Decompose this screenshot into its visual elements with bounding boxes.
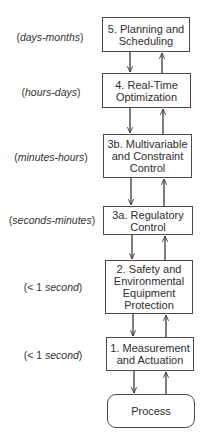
timescale-level-5: (days-months) [16,31,83,43]
level-5-label: 5. Planning and Scheduling [108,23,184,47]
level-3b-multivariable-constraint-control-box: 3b. Multivariable and Constraint Control [103,134,192,178]
timescale-value: seconds-minutes [12,214,91,226]
level-4-real-time-optimization-box: 4. Real-Time Optimization [102,73,191,108]
control-hierarchy-diagram: (days-months) 5. Planning and Scheduling… [0,0,206,441]
process-box: Process [107,394,195,428]
timescale-value: second [45,349,79,361]
timescale-level-3b: (minutes-hours) [14,151,88,163]
timescale-prefix: (< 1 [24,349,45,361]
timescale-value: hours-days [25,86,77,98]
level-3a-label: 3a. Regulatory Control [112,209,184,233]
level-1-measurement-actuation-box: 1. Measurement and Actuation [106,337,194,371]
level-1-label: 1. Measurement and Actuation [110,342,189,366]
level-5-planning-scheduling-box: 5. Planning and Scheduling [102,17,190,52]
timescale-suffix: ) [77,86,81,98]
timescale-suffix: ) [79,281,83,293]
timescale-level-3a: (seconds-minutes) [9,214,95,226]
timescale-suffix: ) [92,214,96,226]
timescale-suffix: ) [79,349,83,361]
timescale-level-2: (< 1 second) [24,281,83,293]
timescale-value: second [45,281,79,293]
timescale-value: minutes-hours [18,151,85,163]
timescale-level-4: (hours-days) [22,86,81,98]
timescale-value: days-months [20,31,80,43]
timescale-suffix: ) [84,151,88,163]
process-label: Process [131,405,171,417]
timescale-suffix: ) [80,31,84,43]
level-4-label: 4. Real-Time Optimization [115,79,178,103]
level-3a-regulatory-control-box: 3a. Regulatory Control [103,206,193,235]
timescale-level-1: (< 1 second) [24,349,83,361]
level-2-safety-environmental-protection-box: 2. Safety and Environmental Equipment Pr… [105,260,193,314]
timescale-prefix: (< 1 [24,281,45,293]
level-2-label: 2. Safety and Environmental Equipment Pr… [114,263,184,311]
level-3b-label: 3b. Multivariable and Constraint Control [107,138,187,174]
